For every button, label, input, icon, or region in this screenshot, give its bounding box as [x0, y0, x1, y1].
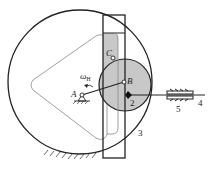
point-b — [122, 80, 126, 84]
label-part-3: 3 — [138, 128, 143, 138]
label-a: A — [70, 89, 77, 99]
label-c: C — [106, 48, 113, 58]
label-part-5: 5 — [176, 104, 181, 114]
triangle-cam — [31, 35, 107, 140]
label-part-2: 2 — [130, 98, 135, 108]
label-omega: ωH — [80, 71, 91, 82]
ground-hatch-bottom — [44, 150, 100, 159]
label-part-4: 4 — [198, 98, 203, 108]
label-b: B — [127, 76, 133, 86]
mechanism-diagram: A B C ωH 2 3 4 5 — [0, 0, 221, 170]
